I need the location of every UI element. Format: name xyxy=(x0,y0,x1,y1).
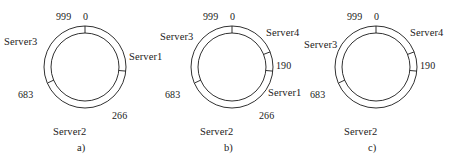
tick-label-999: 999 xyxy=(203,12,218,22)
tick-label-0: 0 xyxy=(230,12,235,22)
tick-label-999: 999 xyxy=(56,12,71,22)
ring-drawing-c xyxy=(304,0,456,161)
ring-outer-circle xyxy=(335,26,417,108)
tick-label-683: 683 xyxy=(165,90,180,100)
ring-panel-c: 999 0 190 683 Server4 Server3 Server2 c) xyxy=(304,0,456,161)
panel-caption-b: b) xyxy=(224,142,233,153)
server-label-server4: Server4 xyxy=(410,28,443,39)
tick-label-683: 683 xyxy=(18,90,33,100)
tick-mark-266 xyxy=(119,71,126,72)
ring-inner-circle xyxy=(342,33,410,101)
server-label-server2: Server2 xyxy=(53,127,86,138)
tick-label-999: 999 xyxy=(347,12,362,22)
server-label-server3: Server3 xyxy=(4,37,37,48)
tick-label-683: 683 xyxy=(310,90,325,100)
ring-inner-circle xyxy=(51,33,119,101)
tick-mark-266-unlabeled xyxy=(410,71,417,72)
tick-label-266: 266 xyxy=(112,111,127,121)
server-label-server2: Server2 xyxy=(344,127,377,138)
server-label-server3: Server3 xyxy=(304,40,337,51)
tick-mark-683 xyxy=(48,80,54,83)
tick-mark-190 xyxy=(264,52,271,55)
ring-panel-b: 999 0 190 266 683 Server4 Server1 Server… xyxy=(152,0,304,161)
tick-mark-190 xyxy=(408,52,415,55)
tick-mark-683 xyxy=(195,80,201,83)
hash-ring-figure: 999 0 266 683 Server1 Server2 Server3 a)… xyxy=(0,0,458,161)
tick-label-190: 190 xyxy=(420,61,435,71)
server-label-server3: Server3 xyxy=(160,32,193,43)
ring-outer-circle xyxy=(191,26,273,108)
server-label-server4: Server4 xyxy=(266,28,299,39)
tick-label-0: 0 xyxy=(83,12,88,22)
panel-caption-c: c) xyxy=(368,142,376,153)
tick-label-0: 0 xyxy=(374,12,379,22)
ring-outer-circle xyxy=(44,26,126,108)
server-label-server1: Server1 xyxy=(268,88,301,99)
tick-label-266: 266 xyxy=(259,111,274,121)
tick-mark-266 xyxy=(266,71,273,72)
ring-panel-a: 999 0 266 683 Server1 Server2 Server3 a) xyxy=(0,0,152,161)
tick-label-190: 190 xyxy=(276,61,291,71)
server-label-server2: Server2 xyxy=(200,127,233,138)
panel-caption-a: a) xyxy=(77,142,85,153)
ring-inner-circle xyxy=(198,33,266,101)
tick-mark-683 xyxy=(339,80,345,83)
